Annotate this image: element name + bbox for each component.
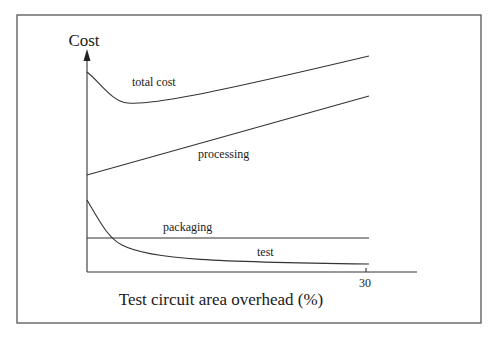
series-total-cost bbox=[87, 56, 369, 103]
cost-chart: Cost 30 Test circuit area overhead (%) t… bbox=[0, 0, 496, 337]
y-axis-arrow-icon bbox=[84, 49, 91, 61]
label-packaging: packaging bbox=[163, 220, 212, 234]
x-axis-label: Test circuit area overhead (%) bbox=[119, 290, 324, 309]
label-test: test bbox=[257, 245, 274, 259]
y-axis-label: Cost bbox=[68, 31, 99, 50]
label-total-cost: total cost bbox=[132, 75, 176, 89]
series-processing bbox=[87, 96, 369, 175]
x-tick-label-30: 30 bbox=[359, 276, 371, 290]
series-test bbox=[87, 200, 369, 264]
label-processing: processing bbox=[198, 147, 249, 161]
